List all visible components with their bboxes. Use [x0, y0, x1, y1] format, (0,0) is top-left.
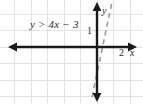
- inequality-label: y > 4x − 3: [30, 19, 79, 30]
- y-axis-label: y: [102, 6, 106, 16]
- y-axis-top-arrowhead: [93, 2, 102, 11]
- x-axis-label: x: [130, 48, 134, 58]
- x-axis-left-arrowhead: [8, 43, 17, 52]
- inequality-graph-figure: y > 4x − 3 y x 1 2: [0, 0, 143, 104]
- y-axis-bottom-arrowhead: [93, 93, 102, 102]
- x-axis-tick-label-2: 2: [119, 48, 124, 58]
- y-axis-tick-label-1: 1: [87, 26, 92, 36]
